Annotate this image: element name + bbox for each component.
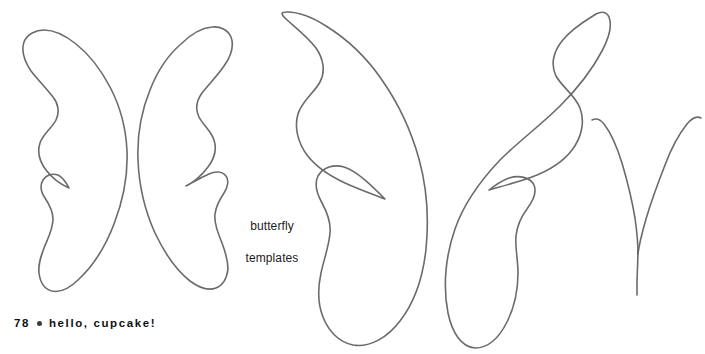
large-left-butterfly-wing xyxy=(282,12,427,345)
book-title: hello, cupcake! xyxy=(49,317,156,329)
antennae-stem xyxy=(637,250,638,295)
page-number: 78 xyxy=(14,317,30,329)
antennae-left-curve xyxy=(592,119,638,254)
bullet-separator-icon xyxy=(37,321,42,326)
antennae-right-curve xyxy=(638,117,701,254)
small-right-butterfly-wing xyxy=(138,27,232,289)
caption-butterfly-templates: butterfly templates xyxy=(222,202,322,282)
large-right-butterfly-wing xyxy=(445,12,610,348)
page-footer: 78 hello, cupcake! xyxy=(14,317,156,329)
caption-line-1: butterfly xyxy=(222,218,322,234)
caption-line-2: templates xyxy=(222,250,322,266)
small-left-butterfly-wing xyxy=(23,30,127,291)
template-page: butterfly templates 78 hello, cupcake! xyxy=(0,0,705,354)
butterfly-template-canvas xyxy=(0,0,705,354)
